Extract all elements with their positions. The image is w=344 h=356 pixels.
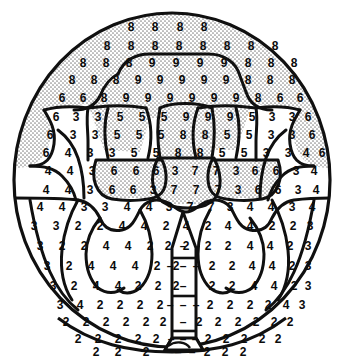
number-cell: 3 [50,280,57,292]
number-cell: 4 [77,299,84,311]
number-cell: 8 [152,40,159,52]
number-cell: 9 [135,74,142,86]
trunk-dash-mark: – [167,260,174,272]
number-cell: 4 [125,240,132,252]
number-cell: 2 [253,316,260,328]
number-cell: 8 [245,74,252,86]
number-cell: 5 [219,147,226,159]
number-cell: 6 [53,111,60,123]
number-cell: 4 [183,220,190,232]
number-cell: 2 [123,316,130,328]
number-cell: 6 [273,165,280,177]
number-cell: 2 [271,316,278,328]
number-cell: 9 [221,57,228,69]
number-cell: 2 [227,299,234,311]
number-cell: 2 [275,333,282,345]
number-cell: 2 [117,299,124,311]
number-cell: 5 [139,111,146,123]
number-cell: 2 [241,333,248,345]
number-cell: 2 [81,240,88,252]
number-cell: 6 [309,129,316,141]
number-cell: 8 [80,57,87,69]
number-cell: 8 [202,129,209,141]
number-cell: 9 [227,111,234,123]
number-cell: 9 [201,74,208,86]
number-cell: 9 [205,111,212,123]
number-cell: 2 [115,333,122,345]
number-cell: 3 [227,201,234,213]
number-cell: 9 [157,74,164,86]
number-cell: 3 [289,201,296,213]
number-cell: 4 [132,260,139,272]
number-cell: 8 [101,92,108,104]
number-cell: 2 [143,346,150,356]
number-cell: 7 [187,201,194,213]
number-cell: 4 [37,201,44,213]
trunk-dash-mark: – [193,299,200,311]
number-cell: 2 [215,316,222,328]
number-cell: 2 [265,299,272,311]
number-cell: 3 [73,111,80,123]
number-cell: 5 [117,111,124,123]
number-cell: 2 [153,333,160,345]
number-cell: 5 [161,111,168,123]
number-cell: 5 [158,129,165,141]
number-cell: 6 [109,184,116,196]
number-cell: 4 [88,260,95,272]
number-cell: 6 [130,184,137,196]
number-cell: 4 [309,201,316,213]
number-cell: 2 [93,346,100,356]
number-cell: 8 [267,74,274,86]
number-cell: 4 [303,147,310,159]
number-cell: 2 [97,299,104,311]
number-cell: 5 [136,129,143,141]
number-cell: 6 [111,165,118,177]
number-cell: 3 [102,201,109,213]
number-cell: 2 [66,260,73,272]
number-cell: 3 [109,147,116,159]
number-cell: 2 [160,316,167,328]
number-cell: 4 [311,165,318,177]
number-cell: 4 [67,165,74,177]
number-cell: 8 [104,40,111,52]
number-cell: 3 [70,129,77,141]
number-cell: 2 [143,316,150,328]
number-cell: 3 [233,165,240,177]
number-cell: 8 [197,147,204,159]
number-cell: 5 [131,147,138,159]
number-cell: 6 [59,92,66,104]
number-cell: 9 [189,92,196,104]
number-cell: 3 [92,129,99,141]
number-cell: 2 [204,346,211,356]
number-cell: 2 [97,220,104,232]
number-cell: 3 [289,129,296,141]
number-cell: 2 [287,240,294,252]
number-cell: 9 [149,57,156,69]
number-cell: 6 [133,165,140,177]
number-cell: 2 [154,260,161,272]
number-cell: 3 [293,165,300,177]
paint-by-number-figure: 8888888888888889999888888999998886689999… [0,0,344,356]
number-cell: 3 [31,220,38,232]
number-cell: 7 [193,184,200,196]
number-cell: 4 [115,280,122,292]
number-cell: 9 [173,57,180,69]
number-cell: 2 [223,333,230,345]
number-cell: 3 [285,147,292,159]
trunk-dash-mark: – [180,299,187,311]
number-cell: 4 [65,147,72,159]
number-cell: 6 [305,111,312,123]
trunk-dash-mark: – [180,240,187,252]
number-cell: 4 [65,184,72,196]
number-cell: 5 [249,111,256,123]
number-cell: 4 [247,240,254,252]
number-cell: 9 [167,92,174,104]
number-cell: 8 [200,40,207,52]
number-cell: 8 [201,21,208,33]
number-cell: 8 [126,57,133,69]
number-cell: 6 [80,92,87,104]
number-cell: 4 [43,184,50,196]
number-cell: 2 [75,333,82,345]
number-cell: 4 [249,260,256,272]
number-cell: 8 [245,57,252,69]
